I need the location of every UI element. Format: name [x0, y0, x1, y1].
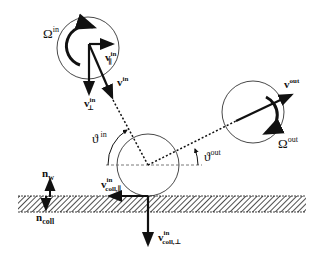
v-perp-in-label: vin⊥ — [84, 96, 95, 112]
v-coll-parallel-label: vincoll,∥ — [101, 176, 121, 193]
omega-out-label: Ωout — [278, 135, 299, 151]
v-in-label: vin — [117, 75, 128, 88]
theta-out-arc — [195, 149, 198, 165]
trajectory-out — [148, 121, 236, 165]
theta-out-label: ϑout — [204, 148, 221, 164]
v-coll-perp-label: vincoll,⊥ — [158, 229, 181, 246]
omega-in-label: Ωin — [43, 25, 59, 41]
v-out-label: vout — [284, 77, 300, 90]
n-coll-label: ncoll — [36, 211, 55, 226]
theta-in-label: ϑin — [92, 130, 107, 146]
n-w-label: nw — [42, 167, 54, 182]
wall — [18, 196, 306, 212]
v-out-arrow — [236, 95, 291, 121]
outgoing-particle — [222, 81, 291, 143]
collision-diagram: Ωin vin∥ vin vin⊥ ϑin ϑout vout Ωout nw … — [0, 0, 321, 255]
